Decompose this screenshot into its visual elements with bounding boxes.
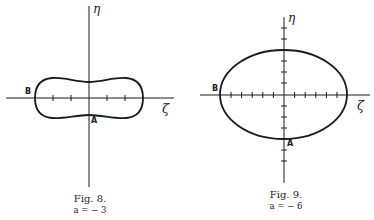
fig8-diagram	[6, 6, 174, 187]
fig8-caption: Fig. 8.	[60, 193, 120, 204]
fig9-zeta-label: ζ	[357, 98, 364, 113]
fig9-caption: Fig. 9.	[256, 189, 316, 200]
fig9-point-b-label: B	[212, 84, 218, 93]
fig9-parameter: a = − 6	[256, 201, 316, 211]
fig8-zeta-label: ζ	[162, 101, 169, 116]
fig9-diagram	[200, 17, 370, 183]
fig8-point-b-label: B	[25, 87, 31, 96]
fig8-point-a-label: A	[91, 116, 97, 125]
fig9-point-a-label: A	[287, 139, 293, 148]
figure-canvas	[0, 0, 374, 220]
fig8-parameter: a = − 3	[60, 205, 120, 215]
fig8-eta-label: η	[93, 2, 100, 16]
fig9-eta-label: η	[288, 11, 295, 25]
